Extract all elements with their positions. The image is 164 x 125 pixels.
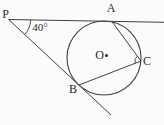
- chord-bc: [79, 61, 141, 85]
- label-point-b: B: [69, 82, 77, 96]
- tangent-line-pb: [9, 20, 111, 116]
- label-point-c: C: [143, 54, 151, 68]
- label-point-a: A: [107, 1, 116, 15]
- angle-arc-p: [25, 20, 31, 35]
- geometry-canvas: P 40° A B C O: [0, 0, 164, 125]
- label-angle-40: 40°: [32, 21, 47, 33]
- label-center-o: O: [95, 48, 104, 62]
- label-point-p: P: [2, 7, 9, 21]
- geometry-figure: P 40° A B C O: [0, 0, 164, 125]
- center-dot: [105, 54, 108, 57]
